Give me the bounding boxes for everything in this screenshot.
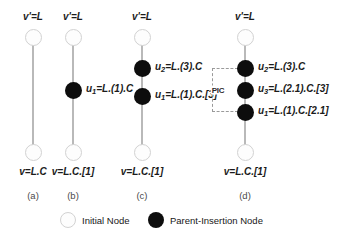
initial-node [25,29,42,46]
top-node-label: v'=L [235,11,255,22]
initial-node [237,144,254,161]
parent-insertion-node-swatch [148,212,164,228]
initial-node [65,144,82,161]
legend-label: Parent-Insertion Node [170,215,263,226]
initial-node [237,29,254,46]
parent-insertion-node [237,104,254,121]
insertion-node-label: u2=L.(3).C [258,61,305,75]
top-node-label: v'=L [132,11,152,22]
parent-insertion-node [134,60,151,77]
subfigure-caption: (d) [239,190,251,201]
bottom-node-label: v=L.C [19,166,47,177]
parent-insertion-node [134,88,151,105]
legend-item: Initial Node [60,212,130,228]
insertion-node-label: u1=L.(1).C.[2.1] [258,105,329,119]
subfigure-caption: (c) [136,190,147,201]
parent-insertion-node [65,82,82,99]
top-node-label: v'=L [23,11,43,22]
bottom-node-label: v=L.C.[1] [224,166,267,177]
initial-node [134,144,151,161]
bottom-node-label: v=L.C.[1] [52,166,95,177]
parent-insertion-node [237,60,254,77]
node-insertion-diagram: v'=Lv=L.C(a)v'=Lv=L.C.[1]u1=L.(1).C(b)v'… [0,0,341,242]
top-node-label: v'=L [63,11,83,22]
insertion-node-label: u1=L.(1).C [86,83,133,97]
node-connector-edge [32,37,34,152]
initial-node [134,29,151,46]
parent-insertion-node [237,82,254,99]
initial-node [25,144,42,161]
insertion-node-label: u2=L.(3).C [155,61,202,75]
legend-label: Initial Node [82,215,130,226]
pic-group-label: PIC [211,86,226,95]
legend-item: Parent-Insertion Node [148,212,263,228]
insertion-node-label: u3=L.(2.1).C.[3] [258,83,329,97]
initial-node-swatch [60,212,76,228]
subfigure-caption: (b) [67,190,79,201]
diagram-legend: Initial NodeParent-Insertion Node [0,208,341,242]
bottom-node-label: v=L.C.[1] [121,166,164,177]
subfigure-caption: (a) [27,190,39,201]
insertion-node-label: u1=L.(1).C.[3] [155,89,217,103]
initial-node [65,29,82,46]
